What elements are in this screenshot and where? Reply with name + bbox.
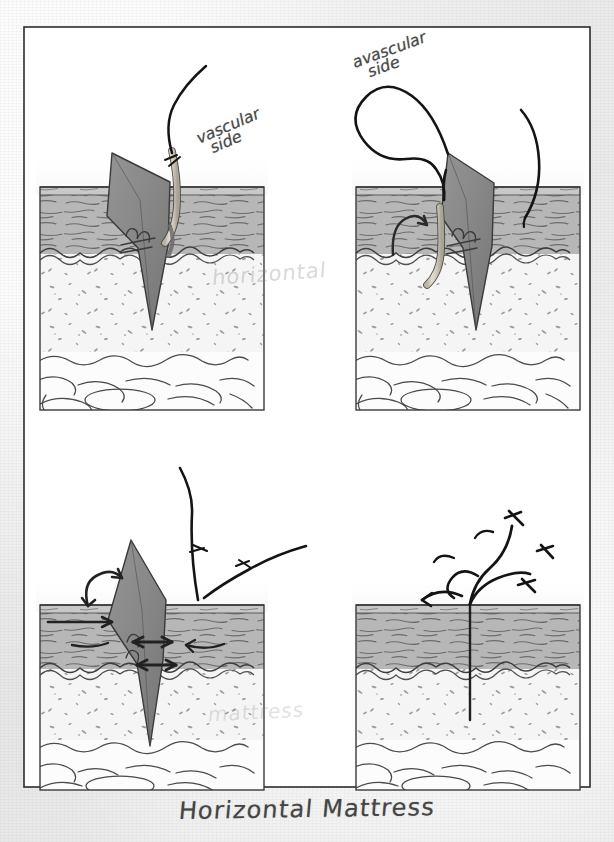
tissue-block-4 bbox=[352, 570, 584, 796]
muscle-layer-1 bbox=[36, 352, 264, 418]
figure-canvas bbox=[0, 0, 614, 842]
muscle-layer-4 bbox=[352, 740, 580, 796]
muscle-layer-3 bbox=[36, 740, 264, 796]
muscle-layer-2 bbox=[352, 352, 580, 418]
